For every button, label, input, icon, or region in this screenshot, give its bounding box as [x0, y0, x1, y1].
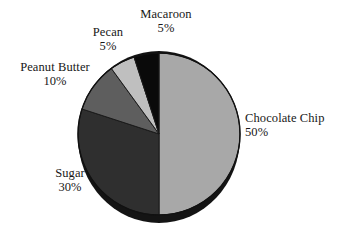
slice-label-name: Chocolate Chip	[245, 111, 325, 125]
slice-label-value: 30%	[34, 180, 106, 194]
chart-plot-area: Chocolate Chip 50% Sugar 30% Peanut Butt…	[0, 0, 352, 239]
slice-label-chocolate-chip: Chocolate Chip 50%	[245, 111, 325, 139]
slice-label-value: 5%	[128, 21, 204, 35]
slice-label-pecan: Pecan 5%	[82, 25, 134, 53]
slice-label-name: Macaroon	[128, 7, 204, 21]
slice-label-name: Peanut Butter	[8, 60, 102, 74]
slice-label-name: Pecan	[82, 25, 134, 39]
slice-label-name: Sugar	[34, 166, 106, 180]
slice-label-value: 10%	[8, 74, 102, 88]
pie-slice-chocolate-chip[interactable]	[159, 53, 240, 215]
slice-label-peanut-butter: Peanut Butter 10%	[8, 60, 102, 88]
slice-label-value: 50%	[245, 125, 325, 139]
slice-label-sugar: Sugar 30%	[34, 166, 106, 194]
slice-label-macaroon: Macaroon 5%	[128, 7, 204, 35]
pie-chart-figure: Chocolate Chip 50% Sugar 30% Peanut Butt…	[0, 0, 352, 239]
slice-label-value: 5%	[82, 39, 134, 53]
